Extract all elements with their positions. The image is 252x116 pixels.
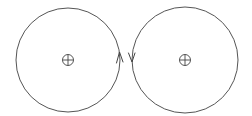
left-center-marker-icon: [63, 55, 74, 66]
right-loop: [129, 7, 239, 113]
left-loop: [16, 8, 123, 112]
two-loops-diagram: [0, 0, 252, 116]
right-center-marker-icon: [180, 55, 191, 66]
